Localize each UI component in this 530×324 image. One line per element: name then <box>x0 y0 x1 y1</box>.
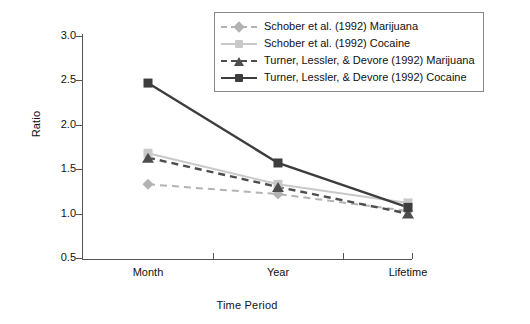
y-tick-mark <box>76 125 82 126</box>
data-point-marker <box>144 79 153 88</box>
legend-key-icon <box>221 37 257 51</box>
data-point-marker <box>274 158 283 167</box>
y-tick-mark <box>76 214 82 215</box>
legend-item-3[interactable]: Turner, Lessler, & Devore (1992) Cocaine <box>221 69 475 86</box>
legend-marker-diamond-icon <box>233 21 244 32</box>
data-point-marker <box>404 203 413 212</box>
legend-key-icon <box>221 71 257 85</box>
legend-item-2[interactable]: Turner, Lessler, & Devore (1992) Marijua… <box>221 52 475 69</box>
ratio-line-chart: Ratio Time Period 0.51.01.52.02.53.0 Mon… <box>0 0 530 324</box>
legend-key-icon <box>221 54 257 68</box>
chart-legend: Schober et al. (1992) MarijuanaSchober e… <box>214 12 484 92</box>
legend-label: Turner, Lessler, & Devore (1992) Marijua… <box>264 55 475 66</box>
legend-key-icon <box>221 20 257 34</box>
legend-marker-square-icon <box>235 74 243 82</box>
y-tick-mark <box>76 258 82 259</box>
legend-item-1[interactable]: Schober et al. (1992) Cocaine <box>221 35 475 52</box>
legend-marker-triangle-icon <box>234 57 244 66</box>
y-tick-mark <box>76 36 82 37</box>
y-tick-mark <box>76 169 82 170</box>
legend-marker-square-icon <box>235 40 243 48</box>
legend-label: Turner, Lessler, & Devore (1992) Cocaine <box>264 72 467 83</box>
y-tick-mark <box>76 80 82 81</box>
data-point-marker <box>143 179 154 190</box>
legend-item-0[interactable]: Schober et al. (1992) Marijuana <box>221 18 475 35</box>
legend-label: Schober et al. (1992) Cocaine <box>264 38 410 49</box>
legend-label: Schober et al. (1992) Marijuana <box>264 21 418 32</box>
